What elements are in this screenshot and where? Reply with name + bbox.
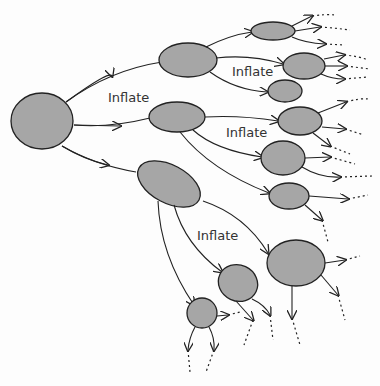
- bubble-top: [159, 43, 217, 77]
- edge: [309, 196, 348, 199]
- continuation: [320, 27, 350, 30]
- edge: [321, 74, 344, 79]
- edge-root-bottom: [62, 146, 136, 172]
- bubble: [251, 22, 295, 40]
- continuation: [312, 15, 335, 16]
- inflate-label: Inflate: [226, 125, 267, 140]
- edge: [292, 16, 312, 26]
- continuation: [325, 44, 345, 45]
- edge: [305, 157, 330, 158]
- continuation: [330, 146, 350, 154]
- edge: [236, 301, 253, 320]
- edge: [313, 133, 330, 146]
- continuation: [346, 66, 370, 69]
- bubble-middle: [149, 102, 205, 132]
- inflation-diagram: Inflate Inflate Inflate Inflate: [0, 0, 380, 386]
- edge: [292, 37, 325, 44]
- continuation: [344, 55, 368, 60]
- edge: [302, 167, 340, 177]
- edge: [318, 102, 346, 113]
- edge: [216, 57, 283, 64]
- continuation: [330, 157, 355, 164]
- edge: [158, 201, 194, 305]
- inflate-label: Inflate: [197, 228, 238, 243]
- edge: [206, 32, 252, 47]
- edge-root-mid: [74, 118, 150, 126]
- continuation: [345, 129, 364, 135]
- continuation: [344, 77, 368, 79]
- bubble: [212, 258, 263, 308]
- continuation: [345, 256, 360, 260]
- edge: [305, 205, 322, 220]
- edge: [209, 327, 214, 350]
- edge: [321, 275, 338, 295]
- bubble: [283, 53, 325, 79]
- bubble: [267, 240, 325, 286]
- inflate-label: Inflate: [232, 64, 273, 79]
- bubble: [269, 183, 309, 209]
- continuation: [270, 315, 273, 340]
- continuation: [340, 176, 372, 177]
- bubble: [261, 141, 305, 175]
- bubble: [268, 80, 302, 102]
- edge: [322, 127, 345, 129]
- continuation: [206, 350, 214, 372]
- continuation: [292, 318, 300, 345]
- edge: [252, 299, 270, 315]
- continuation: [322, 220, 328, 242]
- edge: [295, 27, 320, 31]
- continuation: [188, 350, 190, 372]
- edge: [217, 315, 228, 316]
- continuation: [348, 195, 368, 199]
- edge: [205, 117, 278, 122]
- edge: [325, 260, 345, 263]
- edge: [203, 201, 268, 253]
- continuation: [244, 320, 253, 345]
- inflate-label: Inflate: [108, 90, 149, 105]
- bubble: [278, 107, 322, 135]
- continuation: [338, 295, 345, 320]
- edge: [324, 55, 344, 59]
- continuation: [346, 99, 368, 102]
- arrow: [62, 146, 108, 165]
- bubble-bottom: [130, 151, 208, 216]
- bubble: [187, 298, 217, 328]
- diagram-graphic: [0, 0, 380, 386]
- bubble-root: [11, 93, 73, 149]
- edge: [188, 327, 195, 350]
- continuation: [228, 312, 240, 315]
